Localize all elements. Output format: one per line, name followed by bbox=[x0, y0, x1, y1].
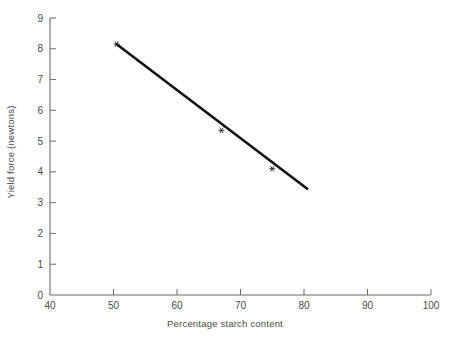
x-axis-title: Percentage starch content bbox=[167, 318, 283, 329]
chart-figure: 0123456789405060708090100 Percentage sta… bbox=[0, 0, 451, 338]
x-tick-label: 70 bbox=[235, 300, 247, 311]
y-tick-label: 0 bbox=[37, 290, 43, 301]
chart-plot-area: 0123456789405060708090100 Percentage sta… bbox=[0, 0, 451, 338]
x-tick-label: 100 bbox=[423, 300, 440, 311]
y-tick-label: 5 bbox=[37, 136, 43, 147]
data-point-marker bbox=[218, 128, 224, 133]
y-tick-label: 8 bbox=[37, 43, 43, 54]
fit-line bbox=[117, 44, 307, 189]
y-axis-title: Yield force (newtons) bbox=[5, 105, 16, 198]
y-tick-label: 7 bbox=[37, 74, 43, 85]
y-tick-label: 6 bbox=[37, 105, 43, 116]
y-tick-label: 3 bbox=[37, 197, 43, 208]
data-point-marker bbox=[269, 166, 275, 171]
y-tick-label: 2 bbox=[37, 228, 43, 239]
tick-marks-group bbox=[50, 18, 431, 295]
x-tick-label: 50 bbox=[108, 300, 120, 311]
axes-group bbox=[50, 18, 431, 295]
x-tick-label: 90 bbox=[362, 300, 374, 311]
x-tick-label: 40 bbox=[44, 300, 56, 311]
x-tick-label: 80 bbox=[298, 300, 310, 311]
x-tick-label: 60 bbox=[171, 300, 183, 311]
y-tick-label: 9 bbox=[37, 13, 43, 24]
tick-labels-group: 0123456789405060708090100 bbox=[37, 13, 439, 311]
data-series-group bbox=[117, 44, 307, 189]
y-tick-label: 1 bbox=[37, 259, 43, 270]
y-tick-label: 4 bbox=[37, 166, 43, 177]
